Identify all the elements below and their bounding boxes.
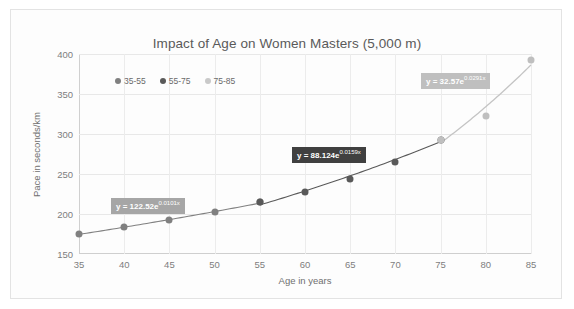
equation-text: y = 32.57e: [426, 77, 464, 86]
y-tick-label: 350: [57, 89, 73, 100]
data-point: [256, 199, 263, 206]
y-tick-label: 400: [57, 49, 73, 60]
trendline-equation-35-55: y = 122.52e0.0101x: [111, 198, 185, 214]
legend-item-35-55[interactable]: 35-55: [115, 76, 146, 86]
legend-marker-icon: [205, 78, 211, 84]
y-axis-title: Pace in seconds/km: [29, 54, 43, 254]
chart-container: Impact of Age on Women Masters (5,000 m)…: [10, 9, 562, 299]
x-tick-label: 40: [119, 259, 130, 270]
legend-marker-icon: [160, 78, 166, 84]
data-point: [347, 175, 354, 182]
legend-label: 55-75: [169, 76, 191, 86]
legend-label: 35-55: [124, 76, 146, 86]
x-tick-label: 45: [164, 259, 175, 270]
trendline-equation-55-75: y = 88.124e0.0159x: [292, 147, 366, 163]
chart-legend: 35-55 55-75 75-85: [115, 76, 235, 86]
equation-exponent: 0.0291x: [464, 75, 485, 81]
equation-exponent: 0.0101x: [158, 200, 179, 206]
x-tick-label: 65: [345, 259, 356, 270]
x-tick-label: 85: [526, 259, 537, 270]
data-point: [211, 208, 218, 215]
equation-exponent: 0.0159x: [339, 149, 360, 155]
equation-text: y = 122.52e: [116, 202, 158, 211]
x-tick-label: 70: [390, 259, 401, 270]
y-tick-label: 200: [57, 209, 73, 220]
y-tick-label: 300: [57, 129, 73, 140]
data-point: [437, 136, 444, 143]
data-point: [121, 223, 128, 230]
x-tick-label: 80: [481, 259, 492, 270]
data-point: [392, 159, 399, 166]
legend-label: 75-85: [214, 76, 236, 86]
y-tick-label: 150: [57, 249, 73, 260]
equation-text: y = 88.124e: [297, 151, 339, 160]
data-point: [482, 112, 489, 119]
x-tick-label: 75: [435, 259, 446, 270]
y-axis-title-text: Pace in seconds/km: [31, 111, 42, 196]
data-point: [76, 231, 83, 238]
x-axis-title: Age in years: [79, 275, 531, 286]
chart-title: Impact of Age on Women Masters (5,000 m): [11, 36, 563, 51]
x-tick-label: 55: [255, 259, 266, 270]
y-tick-label: 250: [57, 169, 73, 180]
data-point: [528, 56, 535, 63]
data-point: [302, 189, 309, 196]
legend-item-55-75[interactable]: 55-75: [160, 76, 191, 86]
x-tick-label: 50: [209, 259, 220, 270]
trendline-equation-75-85: y = 32.57e0.0291x: [421, 73, 490, 89]
x-tick-label: 35: [74, 259, 85, 270]
legend-marker-icon: [115, 78, 121, 84]
x-tick-label: 60: [300, 259, 311, 270]
gridline-vertical: [531, 54, 532, 254]
data-point: [166, 217, 173, 224]
legend-item-75-85[interactable]: 75-85: [205, 76, 236, 86]
